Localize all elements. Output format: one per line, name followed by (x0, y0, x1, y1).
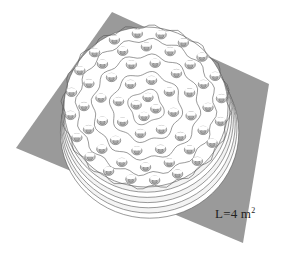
area-label-exponent: 2 (251, 206, 255, 215)
area-label-text: L=4 m (215, 206, 251, 221)
area-label: L=4 m2 (215, 206, 255, 222)
